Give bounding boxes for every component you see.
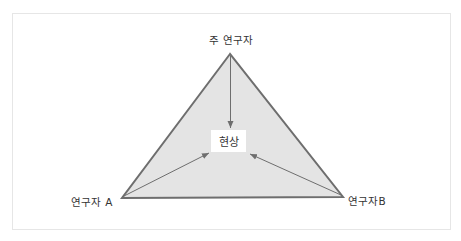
triangle-shape [122, 54, 343, 198]
node-label-lead-researcher: 주 연구자 [204, 34, 258, 46]
node-label-researcher-a: 연구자 A [71, 196, 113, 208]
node-label-researcher-b: 연구자B [348, 195, 386, 207]
center-node-label: 현상 [219, 133, 239, 149]
center-node-phenomenon: 현상 [211, 130, 246, 152]
